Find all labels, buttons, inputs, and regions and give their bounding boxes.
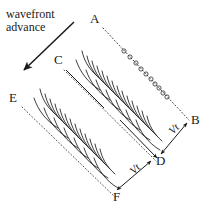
- caption-line-1: wavefront: [6, 8, 55, 21]
- point-label-D: D: [156, 154, 165, 169]
- point-label-C: C: [54, 53, 63, 68]
- figure-canvas: wavefront advance A B C D E F Vt Vt: [0, 0, 210, 212]
- point-label-A: A: [90, 12, 99, 27]
- dotted-line-A-B: [103, 28, 189, 120]
- upper-fracture-array: [76, 51, 162, 150]
- caption-wavefront-advance: wavefront advance: [6, 8, 55, 35]
- point-label-B: B: [191, 113, 200, 128]
- lower-fracture-array: [34, 89, 118, 188]
- point-label-F: F: [113, 190, 120, 205]
- point-label-E: E: [9, 91, 17, 106]
- caption-line-2: advance: [6, 21, 55, 34]
